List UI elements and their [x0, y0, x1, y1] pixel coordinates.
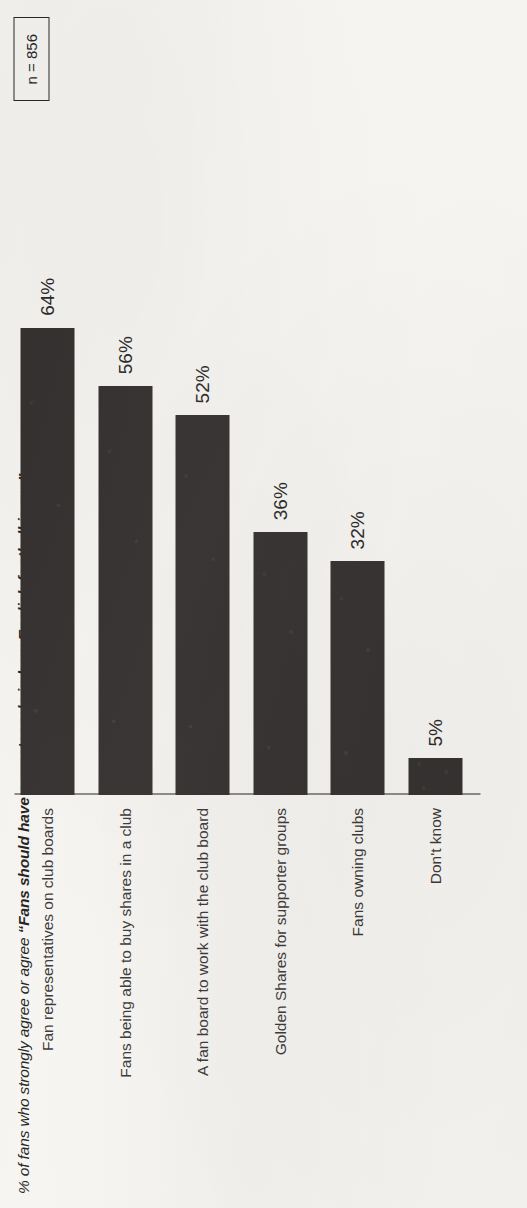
category-label: A fan board to work with the club board — [175, 808, 229, 1076]
bar-group: Golden Shares for supporter groups36% — [253, 0, 307, 1208]
bar[interactable] — [20, 328, 74, 795]
bar[interactable] — [175, 415, 229, 795]
bar-value-label: 64% — [20, 278, 74, 316]
rotated-chart-frame: % of fans who strongly agree or agree “F… — [0, 0, 527, 1208]
bar-value-label: 52% — [175, 365, 229, 403]
bar-value-label: 32% — [330, 511, 384, 549]
bar[interactable] — [408, 759, 462, 796]
plot-area: Fan representatives on club boards64%Fan… — [0, 0, 527, 1208]
bar[interactable] — [330, 561, 384, 795]
bar-group: Fans owning clubs32% — [330, 0, 384, 1208]
bar-value-label: 5% — [408, 719, 462, 746]
category-label: Don't know — [408, 808, 462, 884]
bar[interactable] — [253, 532, 307, 795]
bar-group: Fan representatives on club boards64% — [20, 0, 74, 1208]
bar[interactable] — [98, 386, 152, 795]
bar-group: A fan board to work with the club board5… — [175, 0, 229, 1208]
figure-page: % of fans who strongly agree or agree “F… — [0, 0, 527, 1208]
bar-group: Don't know5% — [408, 0, 462, 1208]
category-label: Fan representatives on club boards — [20, 808, 74, 1051]
category-label: Golden Shares for supporter groups — [253, 808, 307, 1055]
bar-value-label: 56% — [98, 336, 152, 374]
category-label: Fans owning clubs — [330, 808, 384, 936]
bar-value-label: 36% — [253, 482, 307, 520]
category-label: Fans being able to buy shares in a club — [98, 808, 152, 1078]
bar-group: Fans being able to buy shares in a club5… — [98, 0, 152, 1208]
